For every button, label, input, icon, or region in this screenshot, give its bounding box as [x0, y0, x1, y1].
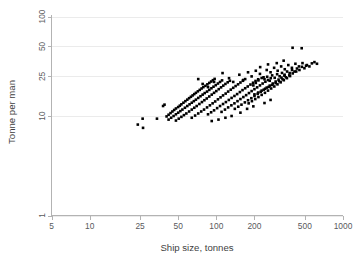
data-point — [210, 120, 213, 123]
y-tick-label-50: 50 — [37, 41, 47, 51]
data-point — [250, 75, 253, 78]
data-point — [183, 114, 186, 117]
data-point — [175, 107, 178, 110]
data-point — [267, 89, 270, 92]
data-point — [270, 87, 273, 90]
data-point — [257, 79, 260, 82]
data-point — [230, 104, 233, 107]
data-point — [236, 100, 239, 103]
data-point — [210, 111, 213, 114]
data-point — [265, 69, 268, 72]
data-point — [257, 96, 260, 99]
data-point — [247, 71, 250, 74]
x-tick-label-5: 5 — [49, 221, 54, 231]
data-point — [278, 75, 281, 78]
data-point — [255, 69, 258, 72]
data-point — [219, 96, 222, 99]
data-point — [260, 89, 263, 92]
data-point — [184, 106, 187, 109]
data-point — [203, 108, 206, 111]
data-point — [269, 77, 272, 80]
data-point — [224, 108, 227, 111]
data-point — [283, 73, 286, 76]
data-point — [211, 102, 214, 105]
data-point — [239, 111, 242, 114]
data-point — [288, 74, 291, 77]
x-tick-label-25: 25 — [135, 221, 145, 231]
data-point — [210, 93, 213, 96]
data-point — [217, 88, 220, 91]
data-point — [301, 66, 304, 69]
data-point — [219, 105, 222, 108]
data-point — [193, 106, 196, 109]
data-point — [221, 79, 224, 82]
data-point — [242, 96, 245, 99]
data-point — [276, 73, 279, 76]
y-axis-title: Tonne per man — [6, 80, 17, 144]
data-point — [195, 105, 198, 108]
data-point — [264, 80, 267, 83]
x-axis-title: Ship size, tonnes — [160, 242, 233, 253]
data-point — [291, 46, 294, 49]
data-point — [217, 98, 220, 101]
data-point — [276, 69, 279, 72]
data-point — [259, 66, 262, 69]
data-point — [264, 92, 267, 95]
data-point — [180, 116, 183, 119]
data-point — [213, 109, 216, 112]
data-point — [197, 112, 200, 115]
data-point — [213, 81, 216, 84]
data-point — [303, 67, 306, 70]
data-point — [214, 100, 217, 103]
data-point — [229, 88, 232, 91]
data-point — [200, 110, 203, 113]
data-point — [252, 105, 255, 108]
chart-figure: 51025501002005001000 1102550100 Ship siz… — [0, 0, 354, 257]
x-tick-label-200: 200 — [247, 221, 261, 231]
data-point — [224, 116, 227, 119]
data-point — [190, 108, 193, 111]
x-tick-label-10: 10 — [85, 221, 95, 231]
data-point — [260, 94, 263, 97]
data-point — [261, 82, 264, 85]
data-point — [201, 83, 204, 86]
data-point — [246, 108, 249, 111]
data-point — [300, 47, 303, 50]
data-point — [308, 65, 311, 68]
data-point — [142, 127, 145, 130]
data-point — [275, 62, 278, 65]
data-point — [282, 59, 285, 62]
scatter-plot-svg: 51025501002005001000 1102550100 Ship siz… — [0, 0, 354, 257]
data-point — [252, 84, 255, 87]
data-point — [267, 63, 270, 66]
y-tick-label-25: 25 — [37, 71, 47, 81]
data-point — [234, 85, 237, 88]
data-point — [209, 104, 212, 107]
data-point — [301, 62, 304, 65]
data-point — [201, 101, 204, 104]
data-point — [167, 118, 170, 121]
data-point — [188, 110, 191, 113]
x-tick-label-1000: 1000 — [334, 221, 353, 231]
data-point — [186, 105, 189, 108]
data-point — [242, 79, 245, 82]
data-point — [285, 76, 288, 79]
data-point — [156, 117, 159, 120]
data-point — [197, 97, 200, 100]
data-point — [245, 94, 248, 97]
data-point — [175, 119, 178, 122]
data-point — [227, 90, 230, 93]
data-point — [170, 116, 173, 119]
data-point — [163, 103, 166, 106]
data-point — [281, 72, 284, 75]
data-point — [287, 64, 290, 67]
data-point — [212, 85, 215, 88]
data-point — [227, 106, 230, 109]
data-point — [221, 72, 224, 75]
data-point — [213, 92, 216, 95]
data-point — [224, 83, 227, 86]
data-point — [268, 79, 271, 82]
data-point — [232, 81, 235, 84]
data-point — [254, 98, 257, 101]
data-point — [239, 91, 242, 94]
